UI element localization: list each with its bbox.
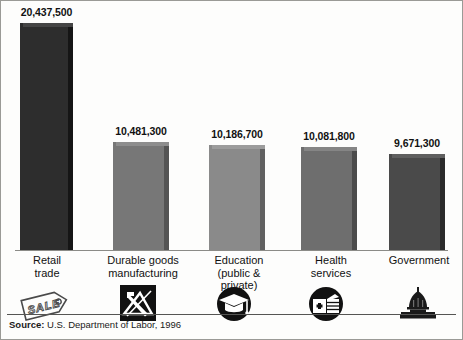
bar-top-face [212, 145, 265, 149]
bar-face [389, 154, 440, 251]
bar-value-label: 10,481,300 [115, 125, 167, 137]
category-label-government: Government [379, 254, 459, 267]
bar-top-face [116, 142, 169, 146]
bar-top-face [23, 23, 73, 27]
bar-education[interactable]: 10,186,700 [209, 145, 265, 251]
source-text: U.S. Department of Labor, 1996 [47, 319, 181, 330]
bar-side-face [440, 158, 445, 251]
category-label-retail-trade: Retail trade [9, 254, 85, 279]
category-label-line: trade [9, 267, 85, 280]
category-label-line: Education [197, 254, 281, 267]
category-label-line: services [293, 267, 369, 280]
bar-side-face [260, 149, 265, 251]
source-label: Source: [9, 319, 44, 330]
medical-bag-icon [306, 284, 350, 326]
bar-value-label: 10,186,700 [211, 128, 263, 140]
bar-face [113, 142, 164, 251]
bar-face [20, 23, 68, 251]
bar-value-label: 20,437,500 [21, 6, 73, 18]
plot-area: 20,437,500 10,481,300 10,186,700 [1, 1, 463, 251]
source-divider [7, 314, 456, 315]
employment-bar-chart: 20,437,500 10,481,300 10,186,700 [0, 0, 463, 340]
axis-baseline [15, 250, 448, 251]
capitol-dome-icon [396, 283, 440, 325]
category-label-line: Government [379, 254, 459, 267]
bar-shape [20, 23, 73, 251]
category-label-health-services: Health services [293, 254, 369, 279]
category-label-line: manufacturing [97, 267, 189, 280]
category-label-line: (public & [197, 267, 281, 280]
bar-top-face [304, 147, 357, 151]
category-label-durable-goods-manufacturing: Durable goods manufacturing [97, 254, 189, 279]
category-label-line: Retail [9, 254, 85, 267]
bar-value-label: 10,081,800 [303, 130, 355, 142]
bar-health-services[interactable]: 10,081,800 [301, 147, 357, 251]
source-attribution: Source: U.S. Department of Labor, 1996 [9, 319, 181, 330]
graduation-cap-icon [214, 284, 258, 326]
bar-face [301, 147, 352, 251]
category-label-line: Health [293, 254, 369, 267]
bar-face [209, 145, 260, 251]
bar-top-face [392, 154, 445, 158]
bar-value-label: 9,671,300 [394, 137, 440, 149]
bar-side-face [68, 27, 73, 251]
bar-retail-trade[interactable]: 20,437,500 [20, 23, 73, 251]
bar-shape [209, 145, 265, 251]
bar-shape [389, 154, 445, 251]
bar-side-face [352, 151, 357, 251]
bar-durable-goods-manufacturing[interactable]: 10,481,300 [113, 142, 169, 251]
bar-shape [113, 142, 169, 251]
bar-government[interactable]: 9,671,300 [389, 154, 445, 251]
category-label-line: Durable goods [97, 254, 189, 267]
bar-shape [301, 147, 357, 251]
bar-side-face [164, 146, 169, 251]
